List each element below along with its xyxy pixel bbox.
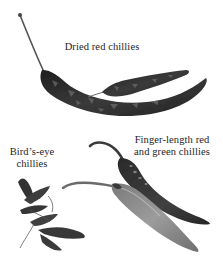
dried-chilli-large xyxy=(18,13,207,116)
label-line: Bird’s-eye xyxy=(8,146,56,158)
label-finger-length-chillies: Finger-length red and green chillies xyxy=(124,134,220,157)
label-line: Finger-length red xyxy=(124,134,220,146)
chillies-artwork xyxy=(0,0,223,260)
label-line: chillies xyxy=(8,158,56,170)
label-dried-red-chillies: Dried red chillies xyxy=(58,41,146,53)
birds-eye-cluster xyxy=(18,179,85,251)
chillies-illustration: Dried red chillies Finger-length red and… xyxy=(0,0,223,260)
dried-chilli-small xyxy=(88,70,189,97)
label-line: Dried red chillies xyxy=(58,41,146,53)
label-line: and green chillies xyxy=(124,146,220,158)
label-birds-eye-chillies: Bird’s-eye chillies xyxy=(8,146,56,169)
